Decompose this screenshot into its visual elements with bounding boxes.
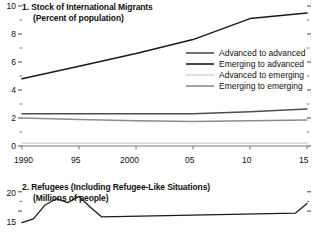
panel1-series-emerging-to-emerging — [22, 118, 307, 122]
panel1-legend-swatches — [186, 50, 216, 96]
panel1-series-advanced-to-advanced — [22, 109, 307, 114]
panel2-data-lines — [22, 196, 307, 222]
panel2-series-refugees — [22, 196, 307, 222]
panel1-xtick-95: 95 — [71, 156, 80, 165]
legend-label-advanced-to-advanced: Advanced to advanced — [219, 49, 305, 58]
figure-container: 1. Stock of International Migrants (Perc… — [0, 0, 319, 242]
panel1-xtick-1990: 1990 — [14, 156, 33, 165]
panel1-xtick-05: 05 — [185, 156, 194, 165]
panel2-tick-marks — [18, 192, 311, 211]
panel1-xtick-10: 10 — [242, 156, 251, 165]
legend-label-emerging-to-advanced: Emerging to advanced — [219, 60, 304, 69]
panel1-xtick-15: 15 — [299, 156, 308, 165]
panel2-plot-area — [0, 180, 319, 242]
panel1-xtick-2000: 2000 — [120, 156, 139, 165]
legend-label-emerging-to-emerging: Emerging to emerging — [219, 82, 303, 91]
panel-stock-of-international-migrants: 1. Stock of International Migrants (Perc… — [0, 0, 319, 172]
panel-refugees: 2. Refugees (Including Refugee-Like Situ… — [0, 180, 319, 242]
legend-label-advanced-to-emerging: Advanced to emerging — [219, 71, 304, 80]
